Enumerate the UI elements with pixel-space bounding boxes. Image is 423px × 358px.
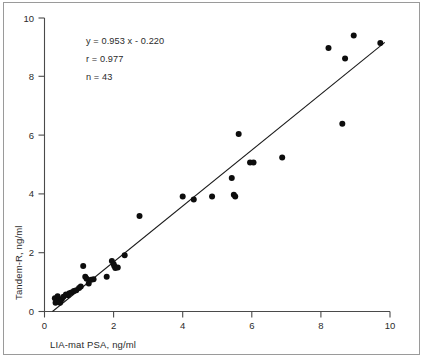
data-point [104,274,110,280]
y-tick-label-4: 4 [29,188,34,199]
x-axis-tick-labels: 0 2 4 6 8 10 [42,320,395,331]
data-point [229,175,235,181]
x-tick-label-10: 10 [385,320,396,331]
regression-line [52,42,384,311]
annotation-correlation: r = 0.977 [86,54,123,64]
data-point [339,121,345,127]
data-point [78,284,84,290]
y-tick-label-0: 0 [29,306,34,317]
annotation-count: n = 43 [86,72,112,82]
data-point [232,193,238,199]
scatter-plot: 0 2 4 6 8 10 0 2 4 6 8 10 LIA-mat PSA, n… [0,0,423,358]
data-point [351,33,357,39]
data-point [137,213,143,219]
data-point [209,193,215,199]
data-point [122,252,128,258]
x-axis-ticks [45,312,391,318]
x-tick-label-8: 8 [318,320,323,331]
y-axis-title: Tandem-R, ng/ml [13,225,24,300]
y-axis-tick-labels: 0 2 4 6 8 10 [23,13,34,318]
annotation-equation: y = 0.953 x - 0.220 [86,36,164,46]
x-tick-label-2: 2 [111,320,116,331]
data-point [115,264,121,270]
figure-panel: 0 2 4 6 8 10 0 2 4 6 8 10 LIA-mat PSA, n… [0,0,423,358]
data-point [180,193,186,199]
data-point [326,45,332,51]
data-point [377,40,383,46]
y-tick-label-6: 6 [29,130,34,141]
data-point [91,276,97,282]
x-tick-label-0: 0 [42,320,47,331]
data-point [236,131,242,137]
data-point [80,263,86,269]
annotation-block: y = 0.953 x - 0.220 r = 0.977 n = 43 [86,36,164,82]
x-tick-label-6: 6 [249,320,254,331]
y-tick-label-8: 8 [29,71,34,82]
y-axis-ticks [39,18,45,312]
data-point [191,196,197,202]
y-tick-label-10: 10 [23,13,34,24]
y-tick-label-2: 2 [29,247,34,258]
x-tick-label-4: 4 [180,320,185,331]
data-point [251,159,257,165]
data-point [279,154,285,160]
x-axis-title: LIA-mat PSA, ng/ml [50,339,136,350]
data-point [342,56,348,62]
